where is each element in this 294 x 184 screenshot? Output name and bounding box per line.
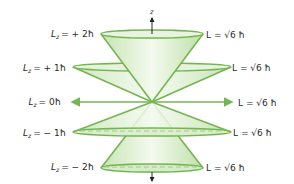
l-label-2: L = √6 ħ (232, 63, 271, 73)
angular-momentum-cones-diagram: z Lz= + 2ħ Lz= + 1ħ Lz= 0ħ Lz= − 1ħ Lz= … (0, 0, 294, 184)
z-axis-label: z (149, 8, 154, 16)
lz-label-zero: Lz= 0ħ (28, 97, 61, 108)
lz-label-plus-2: Lz= + 2ħ (51, 29, 94, 40)
l-label-1: L = √6 ħ (206, 30, 245, 40)
lz-labels: Lz= + 2ħ Lz= + 1ħ Lz= 0ħ Lz= − 1ħ Lz= − … (23, 29, 94, 173)
l-label-5: L = √6 ħ (206, 163, 245, 173)
lz-label-minus-2: Lz= − 2ħ (51, 162, 94, 173)
cone-lz-minus-1 (73, 102, 231, 136)
lz-label-minus-1: Lz= − 1ħ (23, 128, 66, 139)
l-label-3: L = √6 ħ (238, 98, 277, 108)
l-label-4: L = √6 ħ (233, 128, 272, 138)
lz-label-plus-1: Lz= + 1ħ (23, 63, 66, 74)
